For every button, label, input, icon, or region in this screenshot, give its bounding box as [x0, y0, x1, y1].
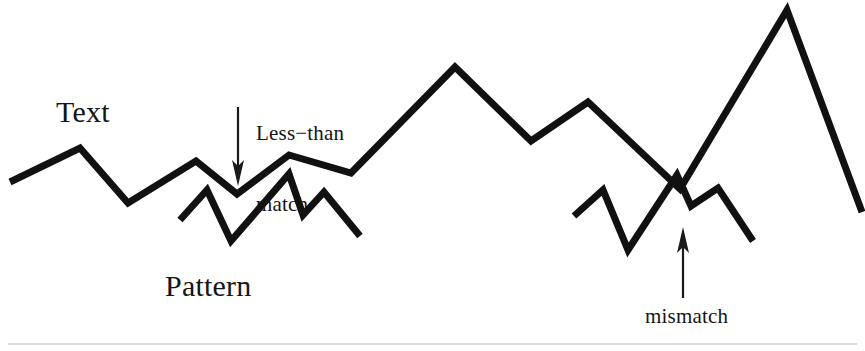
text-polyline [10, 10, 862, 212]
mismatch-arrow [677, 227, 689, 298]
figure-canvas [0, 0, 865, 351]
lessthan-arrow [232, 107, 244, 186]
lessthan-annotation-line1: Less−than [256, 122, 344, 146]
lessthan-annotation-line2: match [256, 193, 344, 217]
text-series-label: Text [56, 95, 110, 129]
mismatch-annotation: mismatch [645, 305, 728, 329]
lessthan-match-annotation: Less−than match [256, 75, 344, 263]
figure-container: Text Pattern Less−than match mismatch [0, 0, 865, 351]
pattern-right-polyline [574, 175, 753, 250]
pattern-series-label: Pattern [165, 269, 251, 303]
